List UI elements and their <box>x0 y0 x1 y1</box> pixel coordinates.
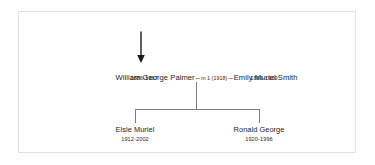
child-node: Ronald George 1920-1996 <box>215 125 303 142</box>
child-dates: 1912-2002 <box>91 136 179 142</box>
child-name: Elsie Muriel <box>91 125 179 134</box>
mother-dates: 1889-1969 <box>218 75 310 81</box>
connector-stem <box>196 82 197 110</box>
parent-dates-row: 1886-1967 1889-1969 <box>19 75 375 85</box>
father-dates: 1886-1967 <box>98 75 190 81</box>
document-frame: William George Palmer–m 1 (1918)–Emily M… <box>18 11 356 153</box>
connector-horizontal <box>135 109 260 110</box>
children-row: Elsie Muriel 1912-2002 Ronald George 192… <box>19 125 375 147</box>
screenshot-canvas: William George Palmer–m 1 (1918)–Emily M… <box>0 0 375 165</box>
connector-drop-left <box>135 109 136 123</box>
child-name: Ronald George <box>215 125 303 134</box>
down-arrow-icon <box>132 31 150 64</box>
child-node: Elsie Muriel 1912-2002 <box>91 125 179 142</box>
connector-drop-right <box>259 109 260 123</box>
child-dates: 1920-1996 <box>215 136 303 142</box>
